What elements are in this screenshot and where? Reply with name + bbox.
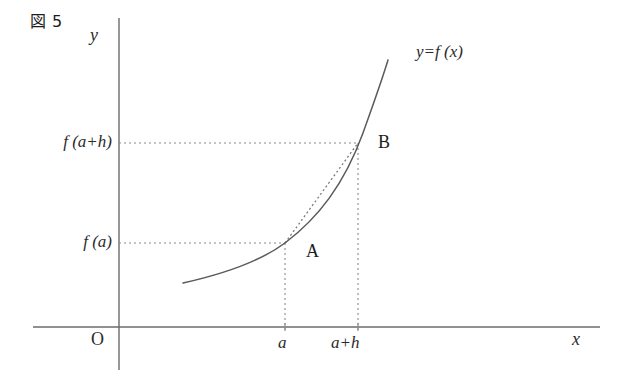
x-axis-label: x — [572, 330, 580, 348]
diagram-canvas — [0, 0, 633, 379]
y-axis-label: y — [90, 26, 98, 44]
figure-caption: 図 5 — [30, 14, 63, 30]
point-label-b: B — [378, 133, 390, 151]
origin-label: O — [91, 330, 104, 348]
y-value-label-f-a: f (a) — [20, 233, 112, 250]
x-tick-label-a: a — [278, 334, 287, 351]
curve-equation-label: y=f (x) — [416, 43, 463, 60]
y-value-label-f-a-plus-h: f (a+h) — [20, 133, 112, 150]
point-label-a: A — [306, 242, 319, 260]
secant-line-ab — [285, 143, 358, 243]
x-tick-label-a-plus-h: a+h — [331, 334, 359, 351]
figure-diagram: 図 5 y x O f (a+h) f (a) a a+h A B y=f (x… — [0, 0, 633, 379]
